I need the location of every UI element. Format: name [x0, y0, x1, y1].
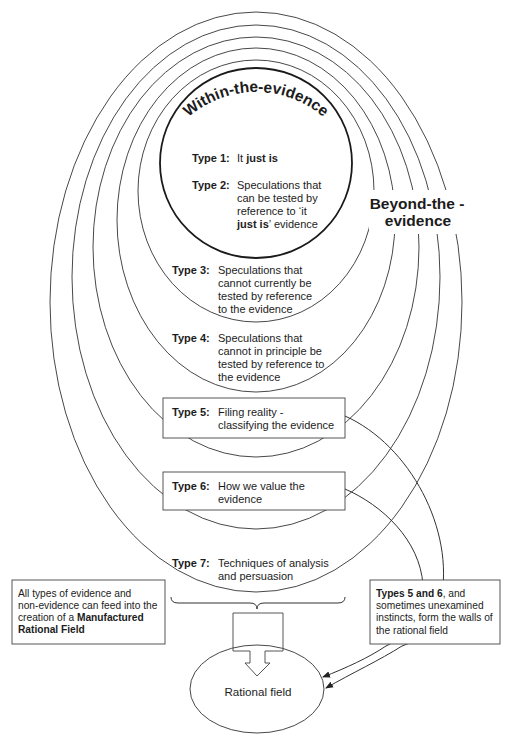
type-6-label: Type 6:	[172, 480, 210, 492]
left-note-box: All types of evidence and non-evidence c…	[12, 580, 165, 644]
left-note-line: creation of a Manufactured	[18, 612, 144, 623]
type-5-box: Type 5: Filing reality - classifying the…	[163, 398, 345, 438]
type-6-box: Type 6: How we value the evidence	[163, 472, 345, 510]
type-2-text-line: Speculations that	[237, 179, 321, 191]
type-6-text-line: evidence	[218, 493, 262, 505]
right-note-line: the rational field	[376, 625, 448, 636]
type-6-text-line: How we value the	[218, 480, 305, 492]
type-4-label: Type 4:	[172, 332, 210, 344]
block-arrow-down	[233, 613, 283, 676]
type-7-text-line: Techniques of analysis	[218, 557, 329, 569]
type-5-ring	[93, 37, 419, 457]
type-3-text-line: cannot currently be	[218, 277, 312, 289]
type-3-label: Type 3:	[172, 264, 210, 276]
diagram-svg: Within-the-evidence Beyond-the - evidenc…	[0, 0, 511, 756]
left-note-line: All types of evidence and	[18, 588, 132, 599]
right-note-line: sometimes unexamined	[376, 600, 484, 611]
type-2-text-line: reference to ‘it	[237, 205, 307, 217]
left-note-line: non-evidence can feed into the	[18, 600, 158, 611]
curly-brace	[171, 597, 345, 609]
type-7-label: Type 7:	[172, 557, 210, 569]
type-3-text-line: Speculations that	[218, 264, 302, 276]
type-4-text-line: tested by reference to	[218, 358, 324, 370]
type-5-text-line: Filing reality -	[218, 406, 284, 418]
type-2-entry: Type 2: Speculations that can be tested …	[192, 179, 321, 230]
type-2-label: Type 2:	[192, 179, 230, 191]
right-note-line: instincts, form the walls of	[376, 612, 493, 623]
type-2-text-line: just is’ evidence	[236, 218, 318, 230]
evidence-diagram: Within-the-evidence Beyond-the - evidenc…	[0, 0, 511, 756]
type-3-entry: Type 3: Speculations that cannot current…	[172, 264, 312, 315]
type-4-text-line: cannot in principle be	[218, 345, 322, 357]
right-note-line: Types 5 and 6, and	[376, 588, 466, 599]
type-1-label: Type 1:	[192, 152, 230, 164]
left-note-line: Rational Field	[18, 624, 85, 635]
beyond-the-evidence-title-line1: Beyond-the -	[370, 195, 465, 212]
type-1-entry: Type 1: It just is	[192, 152, 278, 164]
type-7-entry: Type 7: Techniques of analysis and persu…	[172, 557, 329, 582]
right-note-box: Types 5 and 6, and sometimes unexamined …	[370, 580, 500, 644]
type-3-text-line: to the evidence	[218, 303, 293, 315]
type-5-text-line: classifying the evidence	[218, 419, 334, 431]
type-2-text-line: can be tested by	[237, 192, 318, 204]
type-4-entry: Type 4: Speculations that cannot in prin…	[172, 332, 324, 383]
type-4-text-line: the evidence	[218, 371, 280, 383]
beyond-the-evidence-title-line2: evidence	[385, 212, 452, 229]
type-5-box-frame	[163, 398, 345, 438]
rational-field-label: Rational field	[224, 685, 291, 698]
type-3-text-line: tested by reference	[218, 290, 312, 302]
type-1-text: It just is	[237, 152, 278, 164]
type-4-text-line: Speculations that	[218, 332, 302, 344]
type-5-label: Type 5:	[172, 406, 210, 418]
type-7-text-line: and persuasion	[218, 570, 293, 582]
